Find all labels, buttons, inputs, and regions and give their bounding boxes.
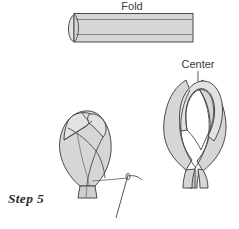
ribbon-folding-diagram: Fold Center: [0, 0, 239, 229]
folded-ribbon-strip: [68, 14, 193, 43]
diagram-canvas: Fold Center: [0, 0, 239, 229]
needle-shaft: [116, 175, 128, 218]
loop-tail-right: [198, 169, 208, 188]
step-label: Step 5: [8, 191, 44, 206]
ribbon-loop-figure: [164, 80, 226, 188]
needle-and-thread: [92, 173, 142, 218]
ribbon-strip-body: [74, 14, 193, 43]
bud-stem: [78, 186, 97, 198]
fold-label: Fold: [121, 0, 142, 12]
gathered-bud-figure: [59, 111, 111, 198]
center-label: Center: [181, 58, 214, 70]
